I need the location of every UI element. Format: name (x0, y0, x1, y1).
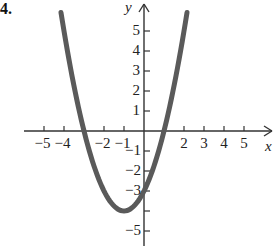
y-tick-label: −1 (125, 143, 141, 158)
y-axis-label: y (125, 0, 132, 15)
y-tick-label: 2 (133, 83, 141, 98)
y-tick-label: −2 (125, 163, 141, 178)
x-tick-label: 2 (180, 136, 188, 151)
parabola-curve (61, 13, 187, 211)
x-axis-arrow-icon (264, 131, 272, 136)
y-tick-label: 4 (133, 43, 141, 58)
x-tick-label: 3 (200, 136, 208, 151)
x-axis-arrow-icon (264, 126, 272, 131)
x-tick-label: 4 (220, 136, 228, 151)
x-tick-label: 5 (240, 136, 248, 151)
y-axis-arrow-icon (139, 4, 144, 12)
y-tick-label: 3 (133, 63, 141, 78)
x-axis-label: x (265, 139, 272, 154)
axes (24, 4, 272, 246)
y-tick-label: 5 (133, 23, 141, 38)
y-tick-label: −3 (125, 183, 141, 198)
graph-figure: 4. −5−4−2−1234554321−1−2−3−5yx (0, 0, 280, 246)
y-tick-label: 1 (133, 103, 141, 118)
parabola-plot (0, 0, 280, 246)
x-tick-label: −4 (55, 136, 71, 151)
x-tick-label: −5 (35, 136, 51, 151)
x-tick-label: −2 (95, 136, 111, 151)
y-axis-arrow-icon (144, 4, 149, 12)
y-tick-label: −5 (125, 223, 141, 238)
